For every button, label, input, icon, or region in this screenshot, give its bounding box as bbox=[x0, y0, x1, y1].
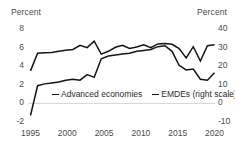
legend-line-icon bbox=[152, 94, 159, 95]
x-tick-label: 2000 bbox=[50, 128, 84, 138]
plot-area bbox=[0, 0, 235, 148]
x-tick-label: 2015 bbox=[161, 128, 195, 138]
series-lines bbox=[31, 41, 215, 115]
left-tick-label: 6 bbox=[8, 42, 24, 52]
chart-container: Percent Percent -202468 -10010203040 199… bbox=[0, 0, 235, 148]
right-tick-label: 30 bbox=[218, 42, 235, 52]
right-tick-label: -10 bbox=[218, 116, 235, 126]
chart-legend: Advanced economiesEMDEs (right scale) bbox=[52, 89, 235, 99]
left-tick-label: 2 bbox=[8, 79, 24, 89]
left-tick-label: 4 bbox=[8, 60, 24, 70]
legend-item-label: Advanced economies bbox=[61, 89, 142, 99]
legend-item-label: EMDEs (right scale) bbox=[161, 89, 235, 99]
x-tick-label: 2005 bbox=[87, 128, 121, 138]
x-tick-label: 1995 bbox=[14, 128, 48, 138]
legend-item-1[interactable]: Advanced economies bbox=[52, 89, 142, 99]
right-tick-label: 10 bbox=[218, 79, 235, 89]
left-tick-label: 0 bbox=[8, 97, 24, 107]
left-tick-label: -2 bbox=[8, 116, 24, 126]
left-tick-label: 8 bbox=[8, 23, 24, 33]
x-tick-label: 2010 bbox=[124, 128, 158, 138]
right-tick-label: 20 bbox=[218, 60, 235, 70]
x-tick-label: 2020 bbox=[198, 128, 232, 138]
legend-line-icon bbox=[52, 94, 59, 95]
series-line-2 bbox=[31, 41, 215, 71]
right-tick-label: 40 bbox=[218, 23, 235, 33]
legend-item-2[interactable]: EMDEs (right scale) bbox=[152, 89, 235, 99]
